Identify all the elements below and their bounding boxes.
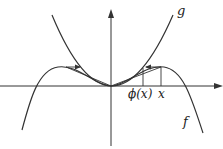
- curve-f: [22, 67, 203, 133]
- x-axis-arrow-icon: [214, 83, 223, 89]
- label-f: f: [182, 114, 190, 129]
- label-phi-x: ϕ(x): [128, 87, 153, 101]
- function-diagram: g f ϕ(x) x: [0, 0, 223, 149]
- label-g: g: [177, 3, 185, 18]
- y-axis-arrow-icon: [108, 9, 114, 18]
- label-x: x: [158, 87, 165, 101]
- chord-left: [66, 67, 111, 86]
- y-axis: [108, 9, 114, 146]
- chord-right: [111, 67, 161, 86]
- curve-g: [52, 15, 173, 86]
